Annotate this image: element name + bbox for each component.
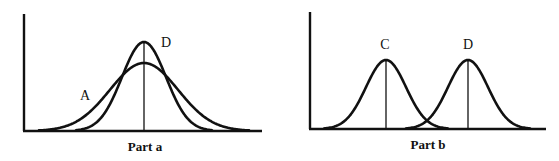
caption-part-a: Part a [128,139,163,154]
label-curve-c: C [380,37,389,52]
normal-distributions-figure: D A Part a C D Part b [0,0,559,161]
label-curve-a: A [80,88,91,103]
label-curve-d: D [463,37,473,52]
panel-part-b: C D Part b [309,12,546,152]
panel-part-a: D A Part a [23,14,262,154]
caption-part-b: Part b [410,137,445,152]
label-curve-b: D [161,35,171,50]
